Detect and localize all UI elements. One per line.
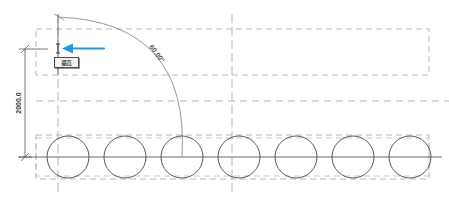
left-arrow-pointer-icon[interactable]	[62, 44, 104, 54]
snap-tooltip-label: 垂直	[61, 60, 72, 66]
vertical-dimension-label: 2000.0	[15, 92, 22, 114]
angle-dimension-label: 60.00°	[148, 43, 166, 63]
upper-dashed-rectangle	[36, 29, 429, 75]
cad-drawing-canvas[interactable]: 2000.0 60.00° 垂直	[0, 0, 449, 206]
vertical-dimension-group: 2000.0	[15, 45, 48, 161]
rotation-arc	[58, 17, 182, 157]
vertical-snap-marker-icon	[56, 44, 60, 53]
cad-drawing-svg: 2000.0 60.00°	[0, 0, 449, 206]
snap-tooltip: 垂直	[54, 57, 79, 68]
